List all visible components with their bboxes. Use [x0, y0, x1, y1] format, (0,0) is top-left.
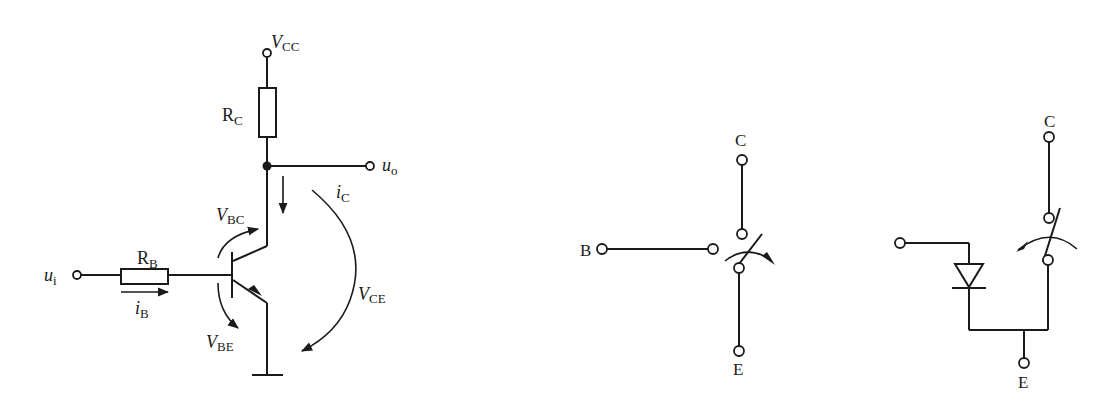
ui-terminal — [73, 271, 81, 279]
collector-label-right: C — [1044, 112, 1055, 131]
rb-resistor — [121, 269, 168, 284]
vbe-arrow — [218, 283, 238, 328]
vbe-label: VBE — [206, 332, 234, 354]
diode-symbol — [955, 264, 983, 287]
vcc-label: VCC — [271, 32, 299, 54]
emitter-contact — [734, 263, 744, 273]
emitter-label-right: E — [1018, 373, 1028, 392]
rc-resistor — [259, 88, 276, 137]
uo-terminal — [366, 162, 374, 170]
rb-label: RB — [137, 248, 158, 271]
emitter-terminal — [734, 346, 744, 356]
collector-terminal-right — [1044, 132, 1054, 142]
circuit-diagrams: VCC RC uo ui — [0, 0, 1116, 409]
rc-label: RC — [222, 105, 243, 128]
emitter-terminal-right — [1019, 358, 1029, 368]
collector-terminal — [737, 155, 747, 165]
vcc-terminal — [263, 49, 271, 57]
switch-with-diode-equivalent: C E — [895, 112, 1077, 392]
vbc-label: VBC — [216, 205, 244, 227]
collector-contact-right — [1044, 213, 1054, 223]
ib-label: iB — [135, 298, 149, 321]
collector-contact — [737, 229, 747, 239]
base-contact — [708, 244, 718, 254]
ui-label: ui — [44, 265, 57, 288]
emitter-contact-right — [1043, 255, 1053, 265]
vce-label: VCE — [358, 284, 386, 306]
switch-equivalent: C B E — [580, 131, 775, 379]
uo-label: uo — [382, 155, 398, 178]
vce-arrow — [302, 190, 356, 351]
base-terminal — [597, 244, 607, 254]
collector-label: C — [735, 131, 746, 150]
base-label: B — [580, 241, 591, 260]
ic-label: iC — [336, 182, 350, 205]
bjt-circuit: VCC RC uo ui — [44, 32, 398, 375]
emitter-label: E — [733, 360, 743, 379]
input-terminal-right — [895, 238, 905, 248]
